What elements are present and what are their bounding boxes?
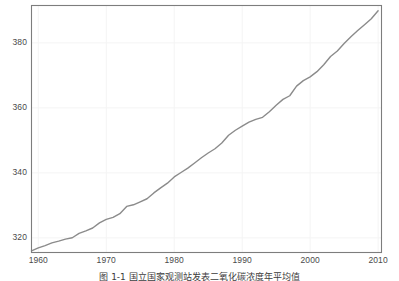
y-tick-label-380: 380 [4,37,27,47]
figure-container: 320340360380196019701980199020002010 图 1… [0,0,399,281]
y-tick-label-340: 340 [4,167,27,177]
x-tick-label-1970: 1970 [90,255,122,265]
data-line-series-0 [32,11,379,251]
x-tick-label-1990: 1990 [226,255,258,265]
chart-plot-area: 320340360380196019701980199020002010 [0,0,399,281]
figure-caption: 图 1-1 国立国家观测站发表二氧化碳浓度年平均值 [0,271,399,281]
x-tick-label-1980: 1980 [158,255,190,265]
x-tick-label-1960: 1960 [22,255,54,265]
grid-lines [32,6,382,253]
x-tick-label-2010: 2010 [362,255,394,265]
y-tick-label-320: 320 [4,232,27,242]
x-tick-label-2000: 2000 [294,255,326,265]
line-chart-svg [0,0,399,281]
y-tick-label-360: 360 [4,102,27,112]
